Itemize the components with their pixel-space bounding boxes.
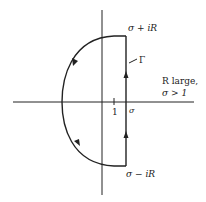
contour-diagram: σ + iR Γ R large, σ > 1 1 σ σ − iR	[0, 0, 206, 202]
bottom-endpoint-label: σ − iR	[126, 169, 155, 179]
gamma-pointer	[129, 59, 137, 63]
arrow-arc-icon	[72, 58, 78, 66]
condition-line2: σ > 1	[162, 88, 187, 98]
sigma-label: σ	[129, 106, 135, 115]
contour-arc	[62, 36, 126, 166]
top-endpoint-label: σ + iR	[128, 23, 157, 33]
tick-one-label: 1	[112, 107, 118, 117]
arrow-arc-icon	[74, 139, 80, 146]
arrow-up-icon	[124, 71, 129, 78]
condition-line1: R large,	[162, 76, 198, 86]
contour-name-label: Γ	[139, 55, 145, 65]
arrow-up-icon	[124, 131, 129, 138]
